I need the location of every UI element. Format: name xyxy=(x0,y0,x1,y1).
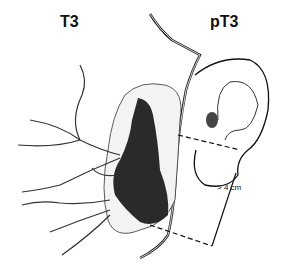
diagram-canvas: T3 pT3 > 4 cm xyxy=(0,0,285,273)
measurement-label: > 4 cm xyxy=(217,183,241,192)
facial-nerve-branches xyxy=(18,65,120,255)
t3-label: T3 xyxy=(60,13,79,31)
ear-inner xyxy=(218,81,259,140)
pt3-label: pT3 xyxy=(210,13,238,31)
illustration xyxy=(0,0,285,273)
ear-outline xyxy=(194,59,268,186)
